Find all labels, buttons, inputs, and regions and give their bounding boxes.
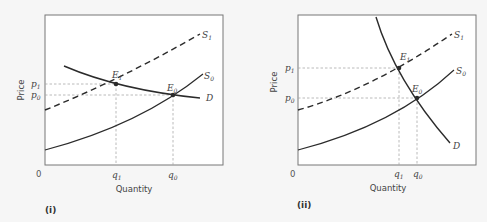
panel-ii: S1 S0 D E1 E0 p1 p0 q1 q0 0 Quantity Pri… [269, 15, 476, 210]
tick-q0-i: q0 [168, 170, 178, 181]
label-d-ii: D [452, 141, 460, 151]
tick-q0-ii: q0 [413, 169, 423, 180]
origin-label-i: 0 [36, 169, 41, 179]
tick-p0-ii: p0 [285, 93, 295, 104]
tick-p1-ii: p1 [285, 63, 295, 74]
equilibrium-point-e1-ii [397, 66, 402, 71]
x-axis-label-i: Quantity [116, 184, 153, 194]
tick-p1-i: p1 [31, 79, 41, 90]
equilibrium-point-e1-i [114, 82, 119, 87]
tick-p0-i: p0 [31, 90, 41, 101]
tick-q1-ii: q1 [394, 169, 404, 180]
tick-q1-i: q1 [112, 170, 122, 181]
y-axis-label-i: Price [16, 80, 26, 101]
x-axis-label-ii: Quantity [370, 183, 407, 193]
label-d-i: D [205, 93, 213, 103]
y-axis-label-ii: Price [269, 72, 279, 93]
supply-demand-diagram: S1 S0 D E1 E0 p1 p0 q1 q0 0 Quantity Pri… [0, 0, 487, 222]
panel-label-i: (i) [45, 205, 56, 215]
equilibrium-point-e0-ii [415, 96, 420, 101]
panel-label-ii: (ii) [297, 200, 311, 210]
origin-label-ii: 0 [290, 169, 295, 179]
panel-i: S1 S0 D E1 E0 p1 p0 q1 q0 0 Quantity Pri… [16, 15, 223, 215]
